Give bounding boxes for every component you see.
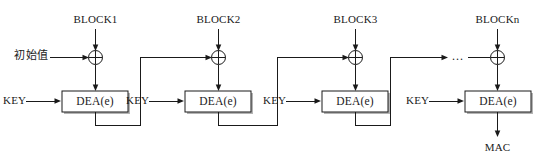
xor-gate-3 [349, 51, 363, 65]
block-label-2: BLOCK2 [197, 13, 241, 25]
dea-box-label-n: DEA(e) [479, 95, 517, 107]
mac-output-wire [495, 112, 501, 137]
key3-wire [286, 98, 321, 104]
block-label-3: BLOCK3 [334, 13, 378, 25]
xor-gate-2 [212, 51, 226, 65]
xor1-to-dea1-wire [93, 65, 99, 92]
block3-input-wire [353, 29, 359, 51]
key-label-2: KEY [126, 94, 149, 106]
keyn-wire [429, 98, 464, 104]
dea-box-label-3: DEA(e) [336, 95, 374, 107]
block-label-n: BLOCKn [476, 13, 520, 25]
key-label-3: KEY [263, 94, 286, 106]
xor3-to-dea3-wire [353, 65, 359, 92]
xor2-to-dea2-wire [216, 65, 222, 92]
block1-input-wire [93, 29, 99, 51]
xor-gate-n [491, 51, 505, 65]
chain-ellipsis: ... [452, 50, 464, 62]
dea-box-label-2: DEA(e) [199, 95, 237, 107]
key-label-n: KEY [406, 94, 429, 106]
initial-value-label: 初始值 [14, 50, 49, 62]
key1-wire [26, 98, 61, 104]
dea-box-label-1: DEA(e) [76, 95, 114, 107]
feedback-wire-2 [219, 55, 350, 126]
key-label-1: KEY [3, 94, 26, 106]
block-label-1: BLOCK1 [74, 13, 118, 25]
feedback-wire-3 [356, 55, 449, 126]
block2-input-wire [216, 29, 222, 51]
blockn-input-wire [495, 29, 501, 51]
mac-output-label: MAC [485, 141, 511, 153]
xor-gate-1 [89, 51, 103, 65]
key2-wire [149, 98, 184, 104]
initial-value-wire [50, 55, 89, 61]
xorn-to-dean-wire [495, 65, 501, 92]
cbc-mac-diagram: BLOCK1 BLOCK2 BLOCK3 BLOCKn 初始值 KEY KEY … [0, 0, 540, 166]
feedback-wire-1 [96, 55, 213, 126]
